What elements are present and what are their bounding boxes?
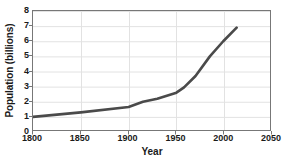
y-tick-label: 5 — [15, 51, 29, 60]
x-tick-label: 1950 — [165, 134, 185, 143]
y-tick-label: 1 — [15, 111, 29, 120]
population-line-chart: Population (billions) 012345678 18001850… — [0, 0, 285, 165]
y-tick-label: 2 — [15, 96, 29, 105]
x-tick-label: 2000 — [213, 134, 233, 143]
x-tick-label: 1800 — [22, 134, 42, 143]
x-tick-label: 2050 — [261, 134, 281, 143]
x-tick-label: 1900 — [118, 134, 138, 143]
plot-canvas — [33, 11, 271, 131]
y-tick-label: 6 — [15, 36, 29, 45]
x-axis-title: Year — [32, 146, 272, 157]
y-tick-label: 4 — [15, 66, 29, 75]
vertical-gridlines — [82, 11, 225, 131]
x-tick-label: 1850 — [70, 134, 90, 143]
y-tick-label: 7 — [15, 21, 29, 30]
plot-area — [32, 10, 271, 131]
y-tick-label: 3 — [15, 81, 29, 90]
y-tick-label: 8 — [15, 6, 29, 15]
